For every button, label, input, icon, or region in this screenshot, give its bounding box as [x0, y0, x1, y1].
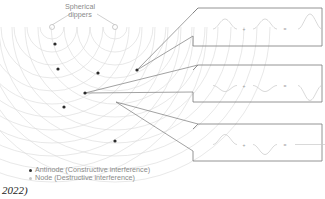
- antinode-dot: [135, 68, 138, 71]
- wavefront-arc: [0, 27, 155, 130]
- label-line-2: dippers: [50, 11, 110, 19]
- legend: Antinode (Constructive interference) Nod…: [29, 166, 150, 182]
- callout-box-constructive-crest: [193, 8, 322, 46]
- legend-node-label: Node (Destructive interference): [35, 174, 135, 182]
- antinode-dot: [96, 71, 99, 74]
- node-dot-icon: [29, 177, 32, 180]
- wavefront-arc: [12, 27, 218, 130]
- spherical-dippers-label: Spherical dippers: [50, 3, 110, 19]
- callout-leader-bottom: [85, 92, 193, 93]
- callout-box-destructive-flat: [193, 124, 322, 161]
- equals-sign: =: [284, 26, 287, 32]
- equals-sign: =: [284, 142, 287, 148]
- plus-sign: +: [243, 142, 246, 148]
- callout-leader-top: [137, 8, 198, 70]
- antinode-dot: [56, 67, 59, 70]
- equals-sign: =: [284, 83, 287, 89]
- wavefront-arc: [0, 27, 207, 182]
- source-dipper-icon: [50, 25, 55, 30]
- wavefront-arc: [0, 27, 270, 182]
- antinode-dot: [113, 139, 116, 142]
- antinode-dot: [53, 42, 56, 45]
- legend-node: Node (Destructive interference): [29, 174, 150, 182]
- antinode-dot-icon: [29, 169, 32, 172]
- wave-sum: [298, 14, 322, 29]
- interference-diagram: +=+=+= Spherical dippers Antinode (Const…: [0, 0, 325, 199]
- wavefront-arc: [51, 27, 179, 91]
- wavefront-arc: [25, 27, 205, 117]
- wave-a: [213, 86, 237, 92]
- callout-leader-top: [85, 65, 198, 93]
- callout-box-constructive-trough: [193, 65, 322, 102]
- antinode-dot: [62, 105, 65, 108]
- plus-sign: +: [243, 83, 246, 89]
- wave-b: [253, 145, 277, 155]
- source-dipper-icon: [113, 25, 118, 30]
- wave-sum: [298, 86, 322, 101]
- wave-a: [213, 19, 237, 29]
- wave-b: [253, 19, 277, 29]
- caption: 2022): [2, 184, 28, 196]
- plus-sign: +: [243, 26, 246, 32]
- antinode-dot: [83, 91, 86, 94]
